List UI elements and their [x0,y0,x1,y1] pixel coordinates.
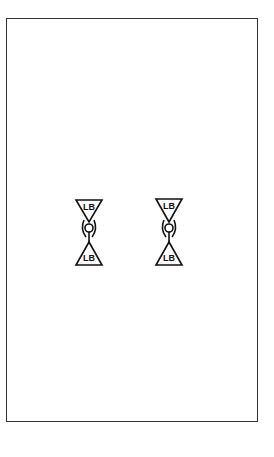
circle-icon [85,224,93,232]
bottom-label: LB [163,253,175,263]
bottom-label: LB [83,253,95,263]
top-label: LB [83,202,95,212]
top-label: LB [163,201,175,211]
circle-icon [165,224,173,232]
lighting-symbol-right: LB LB [156,199,182,265]
lighting-symbol-left: LB LB [76,200,102,265]
symbol-layer: LB LB LB LB [0,0,274,457]
